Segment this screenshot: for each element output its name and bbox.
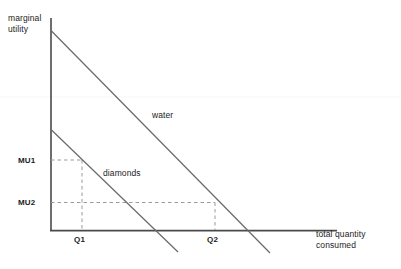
- diamonds-curve-label: diamonds: [103, 168, 141, 179]
- axes-group: [50, 18, 337, 231]
- x-tick-label-q2: Q2: [207, 234, 218, 245]
- water-curve: [52, 31, 271, 253]
- curves-group: [52, 31, 271, 253]
- y-tick-label-mu1: MU1: [18, 155, 36, 166]
- y-axis-label: marginal utility: [8, 13, 41, 35]
- water-curve-label: water: [152, 110, 173, 121]
- y-tick-label-mu2: MU2: [18, 197, 36, 208]
- diamonds-curve: [52, 130, 179, 252]
- x-tick-label-q1: Q1: [74, 234, 85, 245]
- x-axis-label: total quantity consumed: [316, 229, 366, 251]
- marginal-utility-chart: marginal utility total quantity consumed…: [0, 0, 401, 269]
